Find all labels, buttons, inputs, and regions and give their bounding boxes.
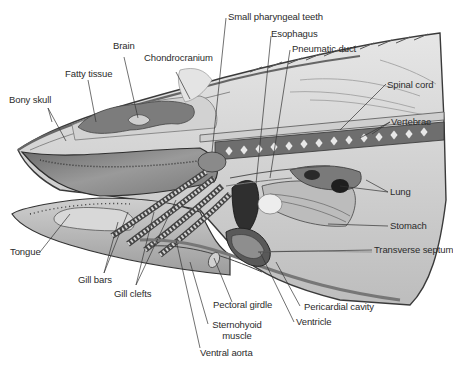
- label-gill-bars: Gill bars: [78, 274, 112, 285]
- label-sternohyoid-line1: Sternohyoid: [206, 319, 268, 330]
- label-pneumatic-duct: Pneumatic duct: [292, 43, 356, 54]
- label-ventricle: Ventricle: [296, 316, 332, 327]
- label-sternohyoid-line2: muscle: [206, 330, 268, 341]
- label-chondrocranium: Chondrocranium: [144, 52, 213, 63]
- pharyngeal-teeth-pad: [198, 152, 226, 172]
- label-sternohyoid-muscle: Sternohyoid muscle: [206, 319, 268, 341]
- label-pectoral-girdle: Pectoral girdle: [213, 299, 272, 310]
- label-fatty-tissue: Fatty tissue: [65, 68, 112, 79]
- label-pericardial-cavity: Pericardial cavity: [304, 301, 374, 312]
- label-stomach: Stomach: [390, 220, 427, 231]
- label-brain: Brain: [113, 40, 135, 51]
- label-tongue: Tongue: [10, 246, 41, 257]
- label-small-pharyngeal-teeth: Small pharyngeal teeth: [228, 11, 323, 22]
- label-bony-skull: Bony skull: [9, 94, 51, 105]
- label-transverse-septum: Transverse septum: [374, 244, 453, 255]
- anatomy-illustration: [0, 0, 453, 368]
- lung-chamber-2: [304, 170, 320, 180]
- label-ventral-aorta: Ventral aorta: [200, 347, 253, 358]
- label-lung: Lung: [390, 186, 411, 197]
- stomach-lumen: [258, 194, 282, 214]
- label-spinal-cord: Spinal cord: [387, 79, 433, 90]
- fish-head-anatomy-diagram: Small pharyngeal teeth Esophagus Pneumat…: [0, 0, 453, 368]
- label-vertebrae: Vertebrae: [391, 116, 431, 127]
- label-gill-clefts: Gill clefts: [114, 288, 151, 299]
- label-esophagus: Esophagus: [271, 28, 318, 39]
